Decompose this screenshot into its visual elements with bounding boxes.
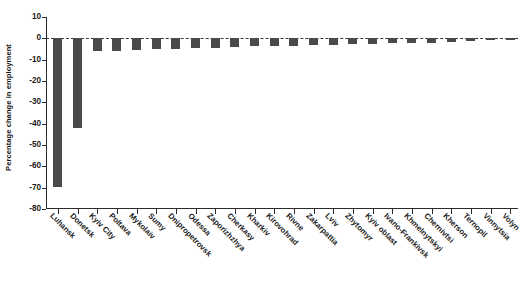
bar <box>427 38 436 42</box>
bar <box>388 38 397 43</box>
y-axis-title-text: Percentage change in employment <box>4 44 13 171</box>
bar <box>211 38 220 47</box>
bars-layer <box>46 17 518 209</box>
plot-area: 100-10-20-30-40-50-60-70-80 <box>46 17 518 209</box>
y-tick-label: -10 <box>29 56 41 64</box>
y-axis-title: Percentage change in employment <box>0 0 16 215</box>
bar <box>329 38 338 44</box>
bar <box>152 38 161 49</box>
bar <box>53 38 62 186</box>
bar <box>73 38 82 128</box>
bar <box>506 38 515 39</box>
bar <box>191 38 200 48</box>
y-tick-label: -70 <box>29 184 41 192</box>
bar <box>309 38 318 45</box>
y-tick-label: -80 <box>29 205 41 213</box>
x-axis-labels: LuhanskDonetskKyiv CityPoltavaMykolaivSu… <box>46 212 518 287</box>
bar <box>486 38 495 40</box>
y-tick-label: -40 <box>29 120 41 128</box>
bar <box>270 38 279 46</box>
bar <box>132 38 141 50</box>
bar <box>93 38 102 51</box>
bar <box>112 38 121 50</box>
bar-chart: Percentage change in employment 100-10-2… <box>0 0 524 287</box>
bar <box>348 38 357 44</box>
y-tick-label: -50 <box>29 141 41 149</box>
bar <box>407 38 416 43</box>
bar <box>289 38 298 45</box>
y-tick-label: -60 <box>29 162 41 170</box>
y-tick-label: -20 <box>29 77 41 85</box>
y-tick-label: 10 <box>32 13 41 21</box>
bar <box>230 38 239 47</box>
bar <box>466 38 475 41</box>
bar <box>250 38 259 46</box>
y-tick-label: 0 <box>36 34 41 42</box>
y-tick-label: -30 <box>29 98 41 106</box>
bar <box>171 38 180 48</box>
bar <box>447 38 456 41</box>
bar <box>368 38 377 44</box>
